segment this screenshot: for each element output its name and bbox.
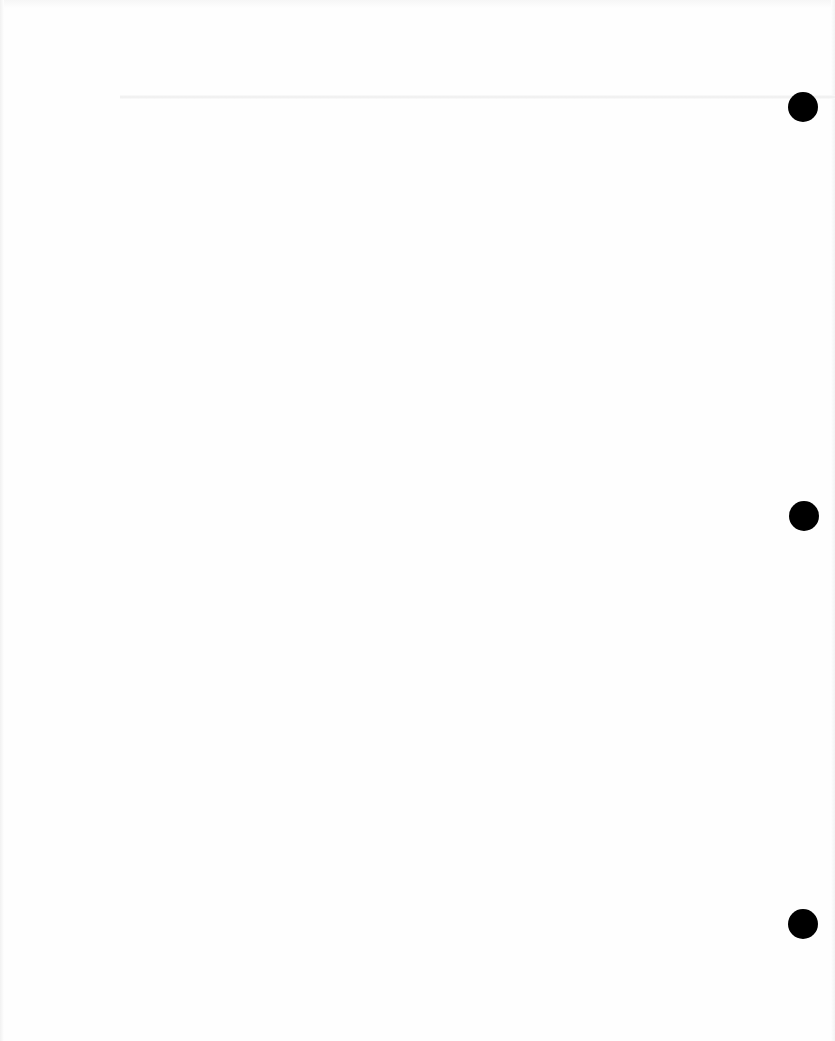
punch-hole-top: [788, 92, 818, 122]
left-edge-shadow: [0, 0, 4, 1041]
paper-crease: [120, 95, 835, 99]
punch-hole-middle: [789, 501, 819, 531]
top-edge-shadow: [0, 0, 835, 8]
blank-page: [0, 0, 835, 1041]
punch-hole-bottom: [788, 909, 818, 939]
right-edge-shadow: [831, 0, 835, 1041]
